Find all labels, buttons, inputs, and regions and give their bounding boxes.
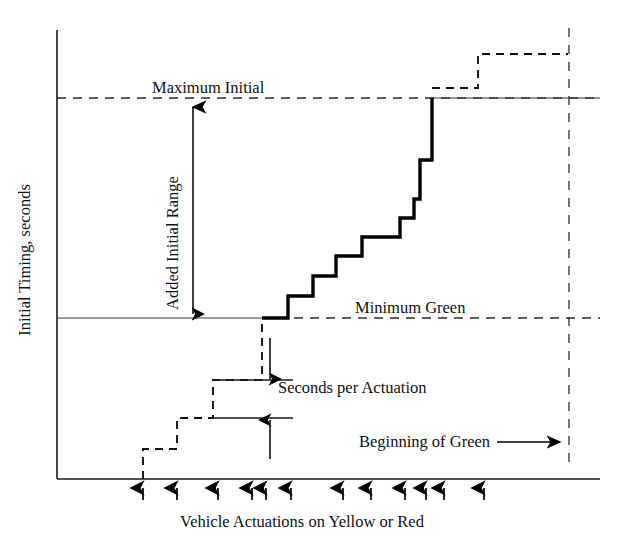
minimum-green-label: Minimum Green (355, 298, 465, 317)
beginning-of-green-group: Beginning of Green (359, 28, 569, 465)
main-staircase (262, 98, 432, 318)
lower-dashed-staircase (143, 318, 262, 479)
maximum-initial-label: Maximum Initial (152, 78, 265, 97)
added-initial-range-label: Added Initial Range (163, 176, 182, 310)
added-initial-range-group: Added Initial Range (163, 107, 193, 314)
figure-root: Maximum Initial Minimum Green Beginning … (0, 0, 629, 546)
y-axis-label: Initial Timing, seconds (15, 184, 34, 336)
seconds-per-actuation-label: Seconds per Actuation (278, 378, 426, 397)
initial-timing-diagram: Maximum Initial Minimum Green Beginning … (0, 0, 629, 546)
series-added-initial-above-maximum-initial (432, 54, 568, 88)
upper-dashed-staircase (432, 54, 568, 88)
minimum-green-group: Minimum Green (57, 298, 600, 318)
actuation-tick-group (143, 488, 484, 500)
beginning-of-green-label: Beginning of Green (359, 432, 490, 451)
series-added-initial-below-minimum-green (143, 318, 262, 479)
maximum-initial-group: Maximum Initial (57, 78, 600, 98)
series-initial-timing-step-function (262, 98, 432, 318)
x-axis-label: Vehicle Actuations on Yellow or Red (180, 512, 425, 531)
